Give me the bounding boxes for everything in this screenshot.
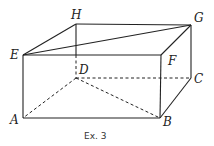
vertex-label-A: A [9, 113, 19, 127]
edge-HG [76, 24, 191, 25]
rectangular-prism-diagram: H G E F D C A B Ex. 3 [0, 0, 214, 146]
vertex-label-D: D [78, 63, 89, 77]
prism-drawing: H G E F D C A B Ex. 3 [0, 0, 214, 146]
diagonal-DB [76, 78, 160, 118]
edge-FB [160, 55, 161, 118]
edge-CB [160, 78, 191, 118]
vertex-label-C: C [194, 72, 203, 86]
edge-DA [23, 78, 76, 118]
vertex-label-F: F [167, 54, 177, 68]
vertex-label-E: E [9, 48, 19, 62]
vertex-label-B: B [162, 115, 172, 129]
figure-caption: Ex. 3 [84, 131, 106, 141]
vertex-label-G: G [194, 11, 204, 25]
vertex-label-H: H [70, 8, 82, 22]
